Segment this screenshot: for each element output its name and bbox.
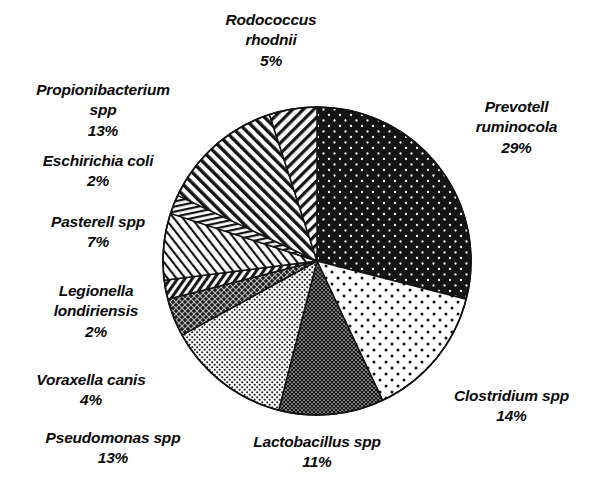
label-rodococcus-name-1: Rodococcus: [176, 10, 366, 30]
label-legionella-name-1: Legionella: [16, 281, 176, 301]
label-propionibacterium-spp: Propionibacterium spp 13%: [8, 80, 198, 141]
label-propionibacterium-name-1: Propionibacterium: [8, 80, 198, 100]
label-voraxella-value: 4%: [6, 390, 176, 410]
label-pseudomonas-name: Pseudomonas spp: [18, 428, 208, 448]
label-legionella-name-2: londiriensis: [16, 301, 176, 321]
label-legionella-londiriensis: Legionella londiriensis 2%: [16, 281, 176, 342]
pie-chart-figure: Rodococcus rhodnii 5% Propionibacterium …: [0, 0, 594, 490]
label-lactobacillus-value: 11%: [222, 452, 412, 472]
label-propionibacterium-value: 13%: [8, 121, 198, 141]
label-eschirichia-value: 2%: [8, 171, 188, 191]
label-legionella-value: 2%: [16, 322, 176, 342]
label-clostridium-spp: Clostridium spp 14%: [434, 386, 589, 427]
pie-svg: [161, 101, 473, 421]
label-rodococcus-name-2: rhodnii: [176, 30, 366, 50]
label-rodococcus-rhodnii: Rodococcus rhodnii 5%: [176, 10, 366, 71]
label-eschirichia-name: Eschirichia coli: [8, 151, 188, 171]
label-clostridium-value: 14%: [434, 406, 589, 426]
label-prevotell-value: 29%: [444, 138, 589, 158]
label-pasterell-value: 7%: [18, 232, 178, 252]
label-prevotell-ruminocola: Prevotell ruminocola 29%: [444, 97, 589, 158]
label-prevotell-name-1: Prevotell: [444, 97, 589, 117]
pie-slices: [163, 107, 471, 415]
label-prevotell-name-2: ruminocola: [444, 117, 589, 137]
label-lactobacillus-name: Lactobacillus spp: [222, 432, 412, 452]
label-voraxella-name: Voraxella canis: [6, 370, 176, 390]
label-pseudomonas-spp: Pseudomonas spp 13%: [18, 428, 208, 469]
label-eschirichia-coli: Eschirichia coli 2%: [8, 151, 188, 192]
label-propionibacterium-name-2: spp: [8, 100, 198, 120]
label-lactobacillus-spp: Lactobacillus spp 11%: [222, 432, 412, 473]
label-pasterell-name: Pasterell spp: [18, 212, 178, 232]
label-clostridium-name: Clostridium spp: [434, 386, 589, 406]
label-pseudomonas-value: 13%: [18, 448, 208, 468]
label-pasterell-spp: Pasterell spp 7%: [18, 212, 178, 253]
label-voraxella-canis: Voraxella canis 4%: [6, 370, 176, 411]
pie-chart: [161, 101, 473, 421]
label-rodococcus-value: 5%: [176, 51, 366, 71]
